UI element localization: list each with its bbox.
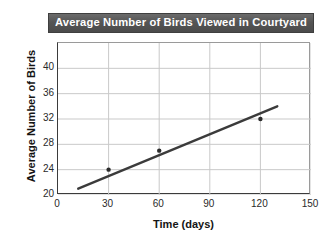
x-tick-label-60: 60 bbox=[138, 199, 178, 209]
plot-area bbox=[57, 42, 310, 194]
horizontal-gridlines bbox=[58, 68, 311, 195]
x-tick-label-30: 30 bbox=[88, 199, 128, 209]
plot-svg bbox=[58, 43, 311, 195]
data-point-0 bbox=[106, 167, 110, 171]
x-axis-tick-labels: 0306090120150 bbox=[57, 199, 310, 213]
chart-figure: Average Number of Birds Viewed in Courty… bbox=[0, 0, 328, 245]
x-tick-label-150: 150 bbox=[290, 199, 328, 209]
data-point-1 bbox=[157, 148, 161, 152]
chart-title-banner: Average Number of Birds Viewed in Courty… bbox=[48, 13, 314, 33]
x-tick-label-90: 90 bbox=[189, 199, 229, 209]
data-point-2 bbox=[258, 117, 262, 121]
x-tick-label-0: 0 bbox=[37, 199, 77, 209]
x-axis-title: Time (days) bbox=[57, 218, 310, 230]
chart-title: Average Number of Birds Viewed in Courty… bbox=[55, 17, 307, 28]
x-tick-label-120: 120 bbox=[239, 199, 279, 209]
y-axis-title: Average Number of Birds bbox=[25, 36, 37, 196]
